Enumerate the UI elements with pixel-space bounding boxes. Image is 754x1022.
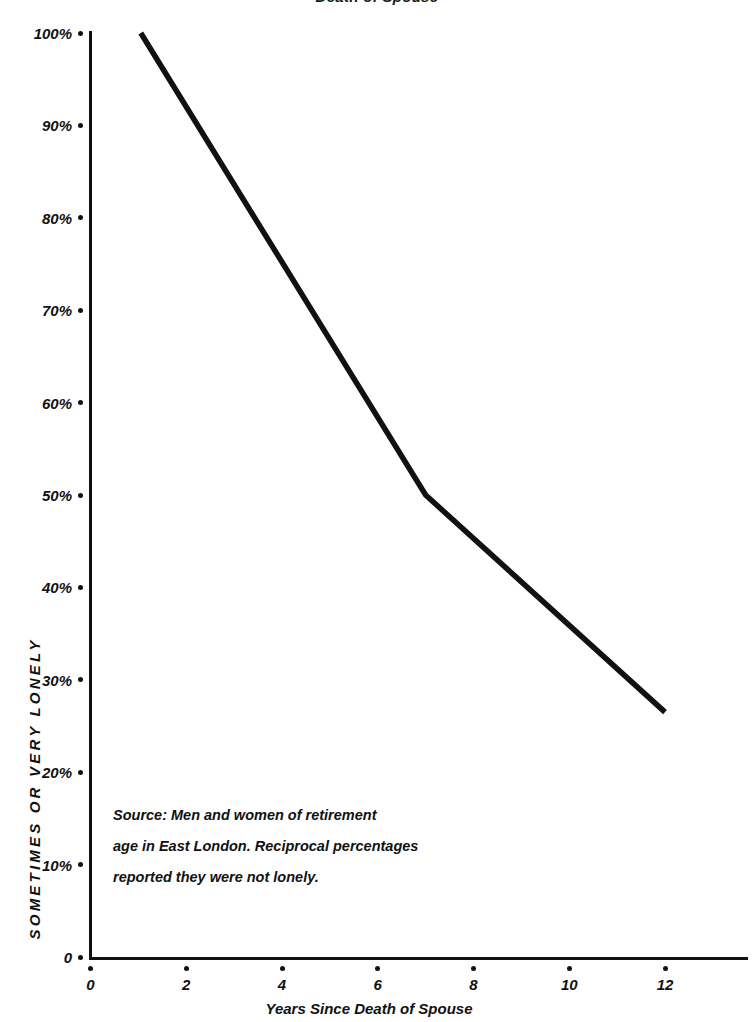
source-note-line-1: Source: Men and women of retirement [113,800,418,831]
y-axis-title: SOMETIMES OR VERY LONELY [26,519,43,1022]
source-note: Source: Men and women of retirement age … [113,800,418,893]
source-note-line-3: reported they were not lonely. [113,862,418,893]
x-axis-title: Years Since Death of Spouse [89,1000,649,1017]
chart-container: Death of Spouse 010%20%30%40%50%60%70%80… [0,0,754,1022]
source-note-line-2: age in East London. Reciprocal percentag… [113,831,418,862]
series-polyline [141,33,665,712]
